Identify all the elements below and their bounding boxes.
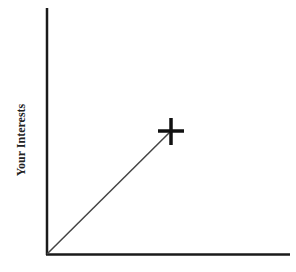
y-axis-label: Your Interests (14, 104, 29, 177)
vector-line (47, 131, 171, 254)
interests-diagram: Your Interests (0, 0, 296, 272)
diagram-svg (0, 0, 296, 272)
